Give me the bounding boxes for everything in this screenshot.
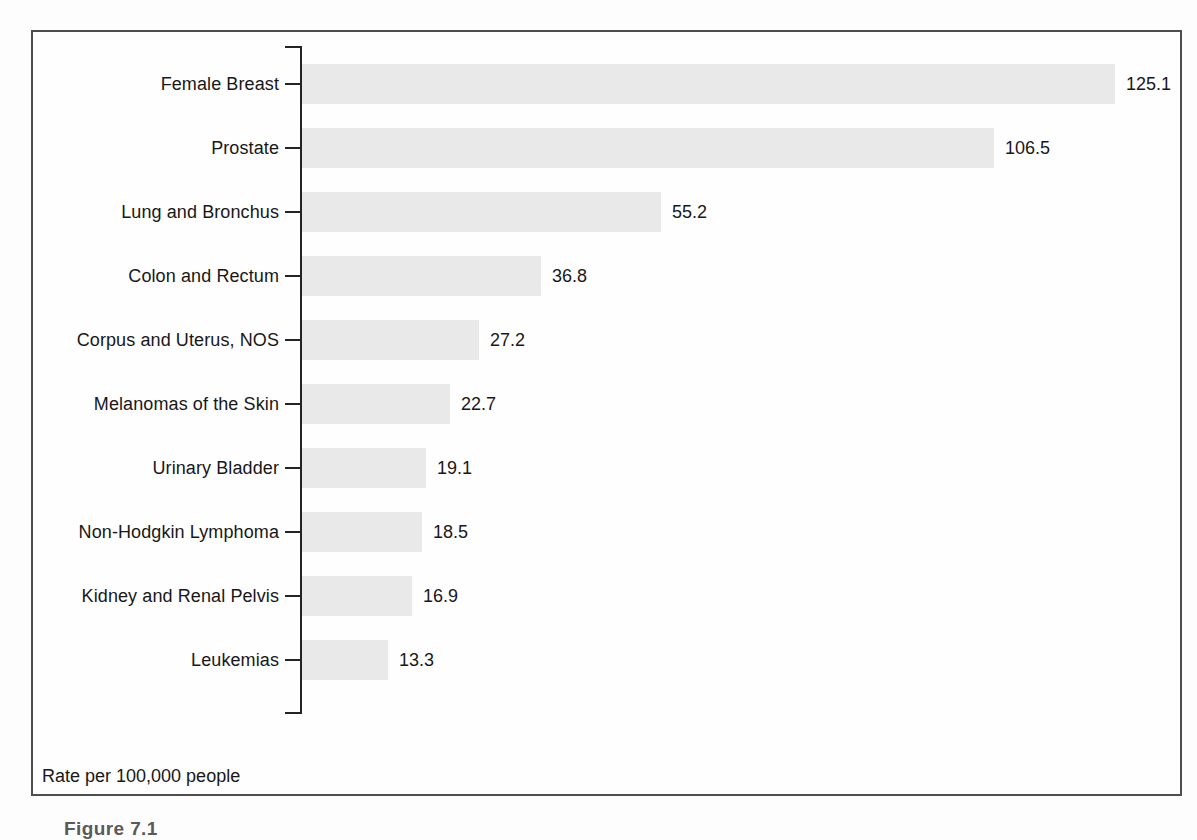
bar: [302, 320, 479, 360]
value-label: 18.5: [433, 522, 468, 543]
category-tick: [285, 659, 300, 661]
bar: [302, 640, 388, 680]
y-axis-top-cap: [285, 46, 302, 48]
category-label: Melanomas of the Skin: [33, 394, 279, 415]
value-label: 19.1: [437, 458, 472, 479]
bar-chart: Female Breast125.1Prostate106.5Lung and …: [33, 32, 1180, 794]
category-tick: [285, 339, 300, 341]
bar: [302, 256, 541, 296]
category-tick: [285, 275, 300, 277]
category-label: Non-Hodgkin Lymphoma: [33, 522, 279, 543]
category-tick: [285, 83, 300, 85]
value-label: 36.8: [552, 266, 587, 287]
bar: [302, 192, 661, 232]
category-tick: [285, 403, 300, 405]
category-label: Female Breast: [33, 74, 279, 95]
category-label: Kidney and Renal Pelvis: [33, 586, 279, 607]
value-label: 16.9: [423, 586, 458, 607]
value-label: 27.2: [490, 330, 525, 351]
category-tick: [285, 211, 300, 213]
category-tick: [285, 147, 300, 149]
bar: [302, 64, 1115, 104]
axis-unit-label: Rate per 100,000 people: [42, 766, 240, 787]
bar: [302, 128, 994, 168]
value-label: 125.1: [1126, 74, 1171, 95]
category-label: Colon and Rectum: [33, 266, 279, 287]
value-label: 106.5: [1005, 138, 1050, 159]
category-label: Corpus and Uterus, NOS: [33, 330, 279, 351]
y-axis-bottom-cap: [285, 712, 302, 714]
clipped-figure-caption: Figure 7.1: [64, 818, 158, 840]
category-label: Lung and Bronchus: [33, 202, 279, 223]
bar: [302, 448, 426, 488]
category-tick: [285, 531, 300, 533]
value-label: 22.7: [461, 394, 496, 415]
value-label: 55.2: [672, 202, 707, 223]
chart-frame: Female Breast125.1Prostate106.5Lung and …: [31, 30, 1182, 796]
category-label: Urinary Bladder: [33, 458, 279, 479]
category-label: Prostate: [33, 138, 279, 159]
category-tick: [285, 595, 300, 597]
bar: [302, 384, 450, 424]
value-label: 13.3: [399, 650, 434, 671]
category-label: Leukemias: [33, 650, 279, 671]
bar: [302, 576, 412, 616]
bar: [302, 512, 422, 552]
category-tick: [285, 467, 300, 469]
